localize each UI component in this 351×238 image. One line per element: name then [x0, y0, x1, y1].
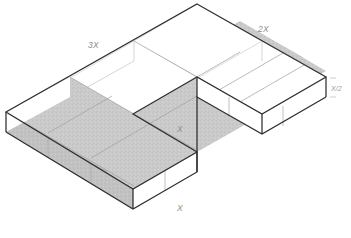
isometric-solid-figure	[0, 0, 351, 238]
label-x-front: X	[177, 203, 183, 213]
label-3x: 3X	[88, 40, 99, 50]
label-height-fraction: X/2	[331, 85, 342, 92]
label-2x: 2X	[258, 24, 269, 34]
fraction-denominator: 2	[338, 85, 342, 92]
label-x-notch: X	[177, 124, 183, 134]
